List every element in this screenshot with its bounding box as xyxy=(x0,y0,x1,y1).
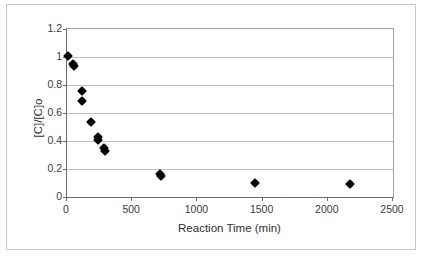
y-tick-label: 0.4 xyxy=(47,134,62,146)
x-tick-label: 500 xyxy=(122,203,140,215)
data-point xyxy=(86,117,96,127)
x-tick-mark xyxy=(327,197,328,201)
x-tick-mark xyxy=(196,197,197,201)
data-point xyxy=(345,179,355,189)
y-tick-label: 0 xyxy=(56,190,62,202)
y-tick-label: 0.6 xyxy=(47,106,62,118)
x-tick-label: 0 xyxy=(63,203,69,215)
x-tick-mark xyxy=(66,197,67,201)
x-tick-label: 2500 xyxy=(380,203,403,215)
y-tick-label: 1.2 xyxy=(47,22,62,34)
y-tick-label: 0.8 xyxy=(47,78,62,90)
y-axis-title-wrapper: [C]/[C]o xyxy=(20,36,36,188)
y-tick-label: 1 xyxy=(56,50,62,62)
data-point xyxy=(77,96,87,106)
x-axis-tick-marks xyxy=(66,197,393,202)
x-axis-title: Reaction Time (min) xyxy=(66,222,393,234)
x-tick-label: 2000 xyxy=(315,203,338,215)
chart-figure: 00.20.40.60.811.2 [C]/[C]o 0500100015002… xyxy=(0,0,425,260)
y-tick-label: 0.2 xyxy=(47,162,62,174)
x-tick-label: 1500 xyxy=(250,203,273,215)
scatter-series-1 xyxy=(66,28,392,196)
x-axis-tick-labels: 05001000150020002500 xyxy=(0,203,425,217)
y-axis-title: [C]/[C]o xyxy=(32,58,44,178)
x-tick-mark xyxy=(262,197,263,201)
x-tick-mark xyxy=(392,197,393,201)
data-point xyxy=(77,86,87,96)
x-tick-mark xyxy=(131,197,132,201)
x-tick-label: 1000 xyxy=(185,203,208,215)
data-point xyxy=(250,178,260,188)
